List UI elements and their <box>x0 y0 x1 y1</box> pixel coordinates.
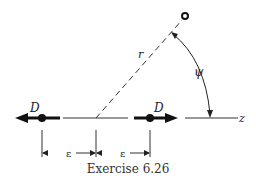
arc-arrowhead-bottom <box>207 110 213 118</box>
radius-line <box>96 20 182 118</box>
field-point-icon <box>182 13 188 19</box>
spacing-left-label: ε <box>66 148 71 159</box>
dipole-right-label: D <box>153 101 164 115</box>
dimension-lines <box>42 130 150 157</box>
dipole-left-label: D <box>29 101 40 115</box>
figure-caption: Exercise 6.26 <box>0 162 256 176</box>
angle-label: ψ <box>194 65 204 79</box>
radius-label: r <box>138 48 144 61</box>
axis-label: z <box>238 112 245 125</box>
angle-arc <box>173 34 210 114</box>
spacing-right-label: ε <box>120 148 125 159</box>
dipole-diagram: D D r ψ z ε ε <box>0 0 256 188</box>
